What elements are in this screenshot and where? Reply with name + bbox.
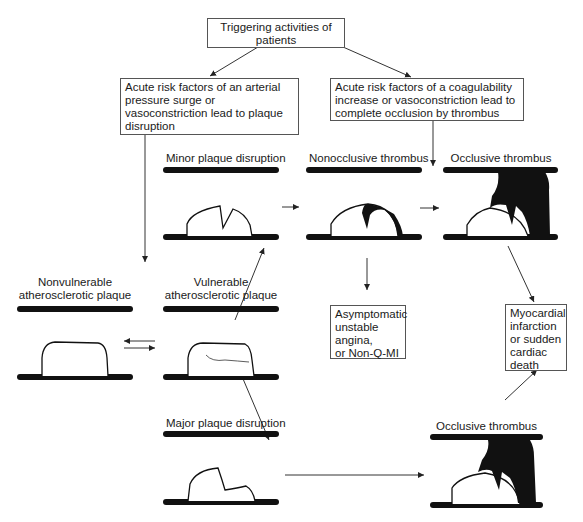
asymptomatic-line4: or Non-Q-MI <box>335 347 401 360</box>
mi-line3: or sudden <box>510 333 562 346</box>
label-nonvulnerable-line2: atherosclerotic plaque <box>15 289 135 302</box>
label-occlusive-thrombus-top: Occlusive thrombus <box>446 152 556 165</box>
plaque-major-disruption <box>188 468 255 501</box>
mi-line4: cardiac <box>510 346 562 359</box>
arrow-title-to-left <box>210 47 258 76</box>
label-nonocclusive-thrombus: Nonocclusive thrombus <box>309 152 419 165</box>
label-vulnerable: Vulnerable atherosclerotic plaque <box>161 276 281 302</box>
left-risk-text: Acute risk factors of an arterial pressu… <box>125 81 283 132</box>
label-nonvulnerable: Nonvulnerable atherosclerotic plaque <box>15 276 135 302</box>
plaque-occlusive <box>467 208 528 236</box>
mi-line5: death <box>510 359 562 372</box>
arrow-occlusive2-to-mi <box>505 370 537 400</box>
mi-box: Myocardial infarction or sudden cardiac … <box>505 304 567 371</box>
title-line-2: patients <box>212 34 340 47</box>
plaque-vulnerable <box>188 343 254 376</box>
asymptomatic-line1: Asymptomatic <box>335 308 401 321</box>
plaque-nonvulnerable <box>42 342 108 376</box>
label-vulnerable-line1: Vulnerable <box>161 276 281 289</box>
label-occlusive-thrombus-bottom: Occlusive thrombus <box>433 420 540 433</box>
asymptomatic-line3: angina, <box>335 334 401 347</box>
label-minor-disruption: Minor plaque disruption <box>166 152 276 165</box>
asymptomatic-line2: unstable <box>335 321 401 334</box>
label-nonvulnerable-line1: Nonvulnerable <box>15 276 135 289</box>
left-risk-box: Acute risk factors of an arterial pressu… <box>120 78 299 135</box>
mi-line2: infarction <box>510 320 562 333</box>
arrow-occlusive-to-mi <box>508 246 534 302</box>
mi-line1: Myocardial <box>510 307 562 320</box>
title-line-1: Triggering activities of <box>212 21 340 34</box>
label-major-disruption: Major plaque disruption <box>166 417 276 430</box>
right-risk-text: Acute risk factors of a coagulability in… <box>335 81 515 119</box>
title-box: Triggering activities of patients <box>207 18 345 48</box>
right-risk-box: Acute risk factors of a coagulability in… <box>330 78 524 121</box>
arrow-title-to-right <box>343 47 411 77</box>
plaque-minor-disruption <box>187 206 252 236</box>
asymptomatic-box: Asymptomatic unstable angina, or Non-Q-M… <box>330 305 406 359</box>
label-vulnerable-line2: atherosclerotic plaque <box>161 289 281 302</box>
